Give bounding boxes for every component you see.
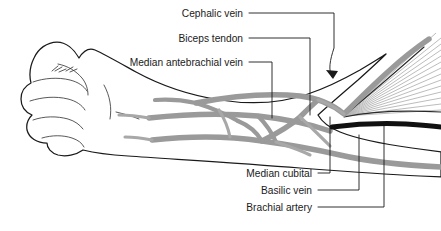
leader-cephalic-vein: [249, 13, 334, 77]
leader-cephalic-vein-arrowhead: [326, 70, 338, 79]
label-biceps-tendon: Biceps tendon: [178, 33, 243, 44]
anatomy-illustration: Cephalic vein Biceps tendon Median anteb…: [0, 0, 441, 231]
label-brachial-artery: Brachial artery: [246, 202, 313, 213]
label-basilic-vein: Basilic vein: [261, 185, 312, 196]
anatomy-figure: Cephalic vein Biceps tendon Median anteb…: [0, 0, 441, 231]
label-cephalic-vein: Cephalic vein: [182, 8, 243, 19]
brachial-artery-group: [332, 124, 441, 127]
label-median-antebrachial-vein: Median antebrachial vein: [130, 57, 243, 68]
brachial-artery-vessel: [332, 124, 441, 127]
label-median-cubital: Median cubital: [246, 168, 312, 179]
